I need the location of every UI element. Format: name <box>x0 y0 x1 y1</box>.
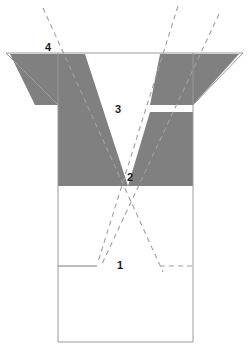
right-shaded-wedge-upper <box>150 54 239 105</box>
label-1: 1 <box>117 259 123 271</box>
right-shaded-wedge-lower <box>128 112 193 186</box>
label-3: 3 <box>115 103 121 115</box>
left-shaded-wedge <box>10 54 128 186</box>
technical-diagram: 1 2 3 4 <box>0 0 249 348</box>
label-2: 2 <box>127 171 133 183</box>
label-4: 4 <box>45 41 52 53</box>
figure-container: 1 2 3 4 <box>0 0 249 348</box>
dashed-line-c <box>102 14 219 264</box>
shaded-regions-group <box>10 54 239 186</box>
